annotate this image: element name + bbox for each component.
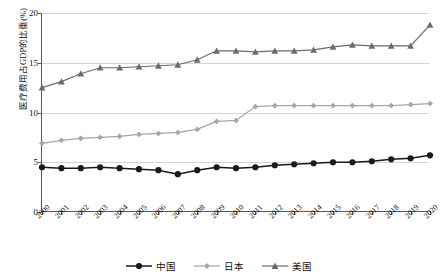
data-point-marker [272, 103, 278, 109]
y-axis-tick-label: 5 [16, 157, 38, 167]
data-point-marker [272, 162, 278, 168]
data-point-marker [156, 130, 162, 136]
series-日本 [39, 101, 433, 147]
plot-area: 05101520 [41, 13, 429, 212]
data-point-marker [214, 164, 220, 170]
data-point-marker [175, 130, 181, 136]
data-point-marker [78, 135, 84, 141]
data-point-marker [117, 165, 123, 171]
data-point-marker [233, 165, 239, 171]
data-point-marker [58, 165, 64, 171]
data-point-marker [408, 155, 414, 161]
data-point-marker [136, 131, 142, 137]
data-point-marker [78, 165, 84, 171]
y-axis-tick-label: 20 [16, 8, 38, 18]
legend-label: 日本 [224, 259, 244, 273]
y-axis-tick-label: 15 [16, 58, 38, 68]
x-axis-labels: 2000200120022003200420052006200720082009… [41, 214, 429, 254]
series-line [42, 25, 430, 88]
data-point-marker [214, 119, 220, 125]
data-point-marker [204, 263, 210, 269]
data-point-marker [427, 152, 433, 158]
series-layer [42, 13, 430, 212]
data-point-marker [330, 159, 336, 165]
data-point-marker [117, 133, 123, 139]
data-point-marker [136, 263, 142, 269]
series-美国 [39, 22, 434, 91]
data-point-marker [369, 103, 375, 109]
legend-item-日本[interactable]: 日本 [193, 259, 244, 273]
data-point-marker [136, 166, 142, 172]
data-point-marker [291, 103, 297, 109]
data-point-marker [194, 127, 200, 133]
data-point-marker [369, 158, 375, 164]
data-point-marker [311, 160, 317, 166]
data-point-marker [97, 134, 103, 140]
data-point-marker [408, 102, 414, 108]
data-point-marker [388, 156, 394, 162]
legend-item-中国[interactable]: 中国 [125, 259, 176, 273]
legend-swatch-circle-icon [125, 260, 153, 272]
data-point-marker [349, 159, 355, 165]
y-axis-tick-label: 10 [16, 108, 38, 118]
data-point-marker [194, 167, 200, 173]
data-point-marker [39, 140, 45, 146]
data-point-marker [311, 103, 317, 109]
data-point-marker [427, 22, 434, 28]
series-中国 [39, 152, 433, 177]
legend-label: 美国 [292, 259, 312, 273]
data-point-marker [350, 103, 356, 109]
data-point-marker [291, 161, 297, 167]
legend-swatch-diamond-icon [193, 260, 221, 272]
data-point-marker [194, 56, 201, 62]
legend-item-美国[interactable]: 美国 [261, 259, 312, 273]
data-point-marker [58, 78, 65, 84]
data-point-marker [252, 164, 258, 170]
data-point-marker [97, 164, 103, 170]
data-point-marker [388, 103, 394, 109]
data-point-marker [59, 137, 65, 143]
chart-legend: 中国日本美国 [0, 256, 437, 276]
data-point-marker [155, 167, 161, 173]
data-point-marker [330, 103, 336, 109]
legend-label: 中国 [156, 259, 176, 273]
legend-swatch-triangle-icon [261, 260, 289, 272]
data-point-marker [175, 171, 181, 177]
data-point-marker [39, 164, 45, 170]
data-point-marker [427, 101, 433, 107]
